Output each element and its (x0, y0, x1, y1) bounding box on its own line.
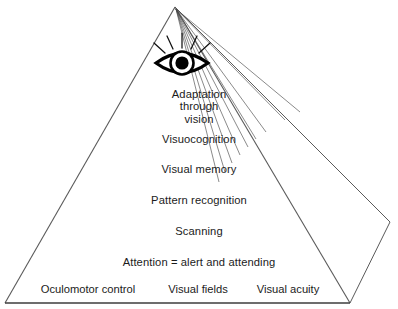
eye-ray-left-2 (154, 43, 165, 53)
pyramid-left-edge (5, 7, 175, 303)
ray-fan-4 (176, 9, 240, 155)
eye-ray-left-1 (167, 36, 173, 49)
pyramid-diagram: Adaptation through vision Visuocognition… (0, 0, 398, 309)
ray-fan-3 (176, 9, 248, 147)
eye-ray-right-2 (199, 43, 210, 53)
eye-ray-burst (154, 33, 210, 53)
pyramid-graphic (0, 0, 398, 309)
light-ray-fan (176, 9, 300, 182)
eye-pupil (175, 56, 188, 69)
facet-lower-edge (350, 222, 390, 303)
ray-fan-6 (176, 9, 225, 172)
